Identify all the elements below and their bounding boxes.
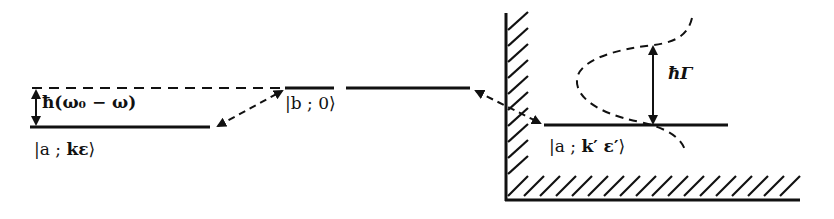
- initial-level-label-prefix: |a ;: [34, 139, 66, 159]
- final-level-label: |a ; k′ ε′⟩: [549, 136, 625, 156]
- transition-arrow-emission: [476, 91, 540, 123]
- final-level-label-k: k′ ε′: [581, 136, 618, 156]
- transition-arrow-absorption: [218, 91, 282, 126]
- linewidth-label: ħΓ: [668, 63, 692, 83]
- initial-level-label-k: kε: [66, 139, 88, 159]
- initial-level-label-suffix: ⟩: [89, 139, 96, 159]
- continuum-floor: [505, 176, 800, 200]
- detuning-label: ħ(ω₀ − ω): [42, 92, 136, 112]
- lorentzian-curve-dashed: [577, 18, 692, 150]
- final-level-label-prefix: |a ;: [549, 136, 581, 156]
- final-level-label-suffix: ⟩: [618, 136, 625, 156]
- continuum-wall: [506, 12, 528, 201]
- initial-level-label: |a ; kε⟩: [34, 139, 95, 159]
- intermediate-level-label: |b ; 0⟩: [285, 93, 336, 113]
